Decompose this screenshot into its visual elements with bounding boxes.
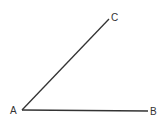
- point-label-b: B: [150, 106, 157, 117]
- ray-ab: [22, 110, 148, 111]
- point-label-c: C: [111, 12, 118, 23]
- ray-ac: [22, 19, 109, 110]
- point-label-a: A: [10, 105, 17, 116]
- angle-diagram: A B C: [0, 0, 162, 131]
